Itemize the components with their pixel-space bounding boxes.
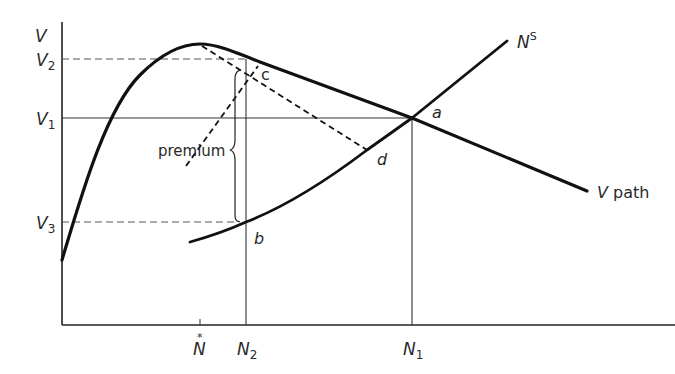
v2-label: V2: [36, 50, 55, 73]
v3-label: V3: [36, 213, 55, 236]
peak-to-d-dashed-line: [202, 46, 367, 150]
point-d-label: d: [377, 150, 388, 169]
v-path-label: V path: [597, 183, 649, 202]
premium-label: premium: [158, 142, 226, 160]
v-path-curve: [62, 44, 587, 260]
point-c-label: c: [261, 65, 270, 84]
supply-curve-label: NS: [517, 30, 537, 52]
wage-path-diagram: V V2 V1 V3 * N N2 N1 V path NS a b c d p…: [0, 0, 675, 374]
n2-label: N2: [237, 339, 257, 362]
n1-label: N1: [403, 339, 423, 362]
point-a-label: a: [432, 103, 442, 122]
nstar-label: N: [193, 339, 206, 359]
point-b-label: b: [254, 229, 264, 248]
v1-label: V1: [36, 109, 55, 132]
y-axis-label: V: [35, 26, 48, 46]
